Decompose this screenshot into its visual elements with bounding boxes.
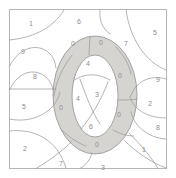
region-label-1-bottom-right: 1 xyxy=(142,146,146,153)
region-label-3-inner: 3 xyxy=(95,91,99,98)
region-label-6-top: 6 xyxy=(77,18,81,25)
region-label-9: 9 xyxy=(21,48,25,55)
region-label-8-right: 8 xyxy=(156,124,160,131)
region-label-9-right: 9 xyxy=(156,76,160,83)
region-label-7-bottom: 7 xyxy=(59,160,63,167)
region-label-1: 1 xyxy=(29,20,33,27)
region-label-0-ring-left: 0 xyxy=(59,104,63,111)
region-label-4-inner-top: 4 xyxy=(86,60,90,67)
region-label-0-ring-lower-right: 0 xyxy=(117,111,121,118)
region-label-0-ring-top-right: 0 xyxy=(99,39,103,46)
region-label-6-inner: 6 xyxy=(89,123,93,130)
region-label-5-right: 5 xyxy=(153,29,157,36)
region-label-7-upper-right: 7 xyxy=(124,40,128,47)
region-label-5: 5 xyxy=(22,103,26,110)
region-label-2: 2 xyxy=(23,145,27,152)
region-label-2-right: 2 xyxy=(148,100,152,107)
region-label-3-bottom: 3 xyxy=(101,164,105,171)
region-label-0-ring-bottom: 0 xyxy=(95,141,99,148)
puzzle-canvas: 1 9 8 5 2 6 0 0 7 5 0 9 2 8 0 0 4 4 3 6 … xyxy=(0,0,176,178)
region-label-0-ring-top-left: 0 xyxy=(71,40,75,47)
region-label-4-inner-left: 4 xyxy=(76,95,80,102)
region-label-8: 8 xyxy=(33,73,37,80)
region-label-0-ring-right: 0 xyxy=(118,72,122,79)
